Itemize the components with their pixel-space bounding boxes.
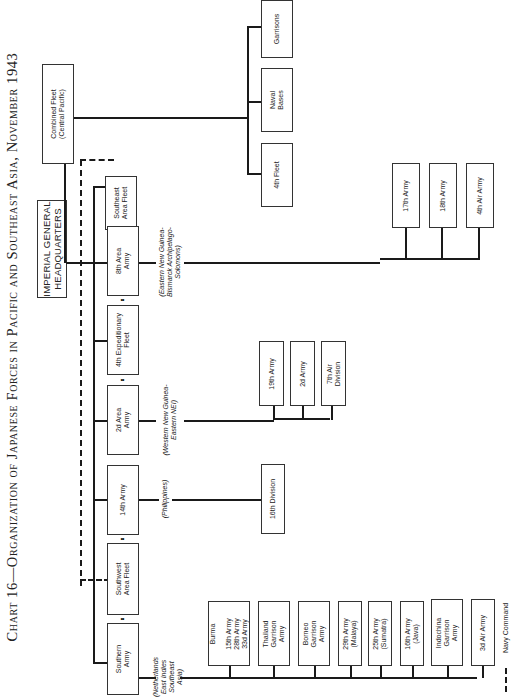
bus-to-indochina-garrison-army [447,665,449,678]
borneo-garrison-army-box: Borneo Garrison Army [298,601,330,666]
bus-to-burma [229,665,231,678]
burma-box: Burma 15th Army 28th Army 33d Army [208,601,250,666]
2d-area-army-box: 2d Area Army [107,385,139,455]
8th-area-army-region-label: (Eastern New Guinea- Bismarck Archipelag… [158,227,182,297]
4th-air-army-box: 4th Air Army [466,163,494,228]
3d-air-army-box: 3d Air Army [471,599,495,666]
navy-command-dashed-line [80,160,82,586]
14th-army-region-label: (Philippines) [161,480,169,519]
8th-area-army-branch-left [139,262,156,264]
18th-army-box: 18th Army [429,163,457,228]
8th-area-army-branch-right [184,262,380,264]
southeast-area-fleet-box: Southeast Area Fleet [105,176,137,230]
29th-army-box: 29th Army (Malaya) [338,601,362,666]
southwest-area-fleet-box: Southwest Area Fleet [107,543,139,615]
bus-to-7th-air-division [331,405,333,420]
19th-army-box: 19th Army [259,341,284,406]
2d-army-box: 2d Army [290,341,315,406]
bus-to-25th-army [380,665,382,678]
bus-to-thailand-garrison-army [273,665,275,678]
coordination-dots: •• [118,378,126,382]
bus-to-19th-army [273,405,275,420]
bus-to-3d-air-army [482,665,484,678]
8th-area-army-box: 8th Area Army [107,226,139,296]
8th-area-army-connector [93,262,107,264]
7th-air-division-box: 7th Air Division [321,341,346,406]
bus-to-4th-fleet [247,173,261,175]
thailand-garrison-army-box: Thailand Garrison Army [258,601,290,666]
trunk-top-branch [93,186,105,188]
bus-to-2d-army [302,405,304,420]
combined-fleet-label: Combined Fleet (Central Pacific) [50,89,66,139]
imperial-general-headquarters-box: IMPERIAL GENERAL HEADQUARTERS [37,200,67,298]
14th-army-branch-left [139,499,159,501]
16th-division-box: 16th Division [261,464,285,534]
16th-army-box: 16th Army (Java) [400,601,424,666]
bus-to-4th-air-army [478,227,480,259]
legend-navy-command-label: Navy Command [502,603,510,653]
2d-area-army-branch-right [184,420,274,422]
17th-army-box: 17th Army [392,163,420,228]
coordination-dots: •• [118,298,126,302]
legend-dashed-line-icon [505,668,507,692]
bus-to-18th-army [441,227,443,259]
bus-to-29th-army [350,665,352,678]
coordination-dots: •• [118,617,126,621]
14th-army-box: 14th Army [107,465,139,535]
southern-army-subordinate-bus [180,677,477,679]
2d-area-army-connector [93,420,107,422]
bus-to-16th-army [412,665,414,678]
southern-army-box: Southern Army [107,623,139,695]
hq-label: IMPERIAL GENERAL HEADQUARTERS [41,201,63,296]
8th-area-army-subordinate-bus [380,258,480,260]
bus-to-borneo-garrison-army [314,665,316,678]
combined-fleet-branch-line [74,117,248,119]
bus-to-garrisons [247,26,261,28]
4th-expeditionary-fleet-box: 4th Expeditionary Fleet [107,305,139,375]
14th-army-connector [93,499,107,501]
main-trunk-line [93,186,95,664]
4th-fleet-box: 4th Fleet [261,143,293,207]
garrisons-box: Garrisons [261,0,293,58]
naval-bases-box: Naval Bases [261,68,293,132]
2d-area-army-branch-left [139,420,156,422]
coordination-dots: •• [118,537,126,541]
chart-title: Chart 16—Organization of Japanese Forces… [4,53,21,642]
navy-dashed-bottom [80,579,110,581]
hq-to-combined-fleet-line [64,164,66,263]
indochina-garrison-army-box: Indochina Garrison Army [431,599,463,666]
14th-army-branch-right [172,499,262,501]
25th-army-box: 25th Army (Sumatra) [368,601,392,666]
bus-to-17th-army [405,227,407,259]
combined-fleet-box: Combined Fleet (Central Pacific) [42,64,74,164]
navy-dashed-top [80,159,114,161]
4th-expeditionary-fleet-connector [93,340,107,342]
2d-area-army-region-label: (Western New Guinea- Eastern NEI) [162,384,178,455]
bus-to-naval-bases [247,101,261,103]
